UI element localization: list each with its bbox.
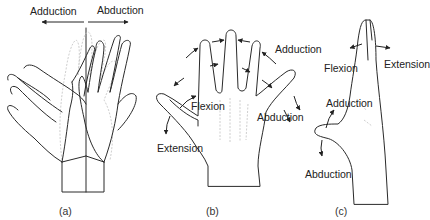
panel-a-adduction-label: Adduction [30, 6, 77, 17]
panel-b-caption: (b) [206, 206, 219, 217]
panel-b-extension-label: Extension [157, 143, 203, 154]
panel-a-abduction-label: Abduction [97, 5, 144, 16]
panel-c-flexion-label: Flexion [324, 63, 358, 74]
panel-c-caption: (c) [335, 206, 347, 217]
panel-b-adduction-label: Adduction [275, 44, 322, 55]
panel-c-extension-label: Extension [384, 59, 430, 70]
panel-c-adduction-label: Adduction [326, 98, 373, 109]
panel-a-hands [8, 22, 137, 192]
panel-b-flexion-label: Flexion [191, 101, 225, 112]
panel-b-abduction-label: Abduction [257, 112, 304, 123]
panel-c-abduction-label: Abduction [305, 169, 352, 180]
panel-a-caption: (a) [59, 206, 72, 217]
